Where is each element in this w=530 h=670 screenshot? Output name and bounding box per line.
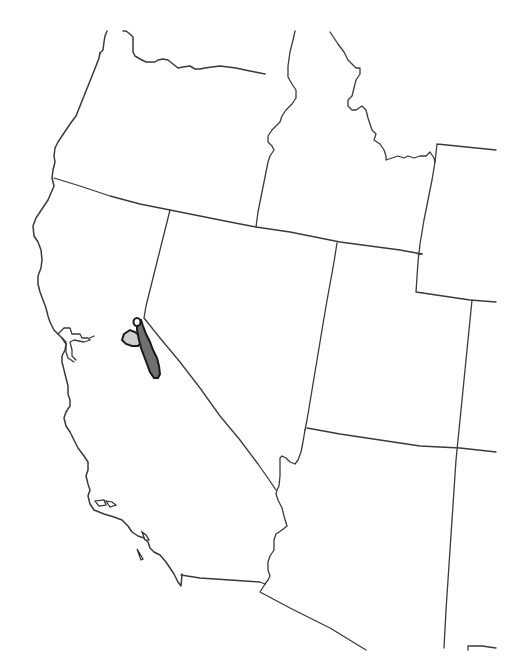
id-mt-boundary: [330, 32, 435, 162]
island: [106, 501, 116, 507]
nm-mexico-border: [468, 646, 496, 650]
or-ca-nv-id-boundary: [54, 178, 422, 254]
pacific-coastline: [33, 53, 182, 586]
oregon-north-boundary: [100, 31, 265, 74]
ut-az-boundary: [307, 428, 496, 452]
range-map: [0, 0, 530, 670]
sf-bay: [58, 328, 94, 362]
ca-nv-boundary: [144, 210, 276, 490]
or-id-boundary: [256, 31, 296, 227]
wy-boundary: [416, 144, 496, 302]
isolated-population: [134, 318, 141, 326]
nv-ut-boundary: [305, 243, 337, 430]
island: [137, 549, 143, 560]
colorado-river-boundary: [265, 430, 305, 584]
ut-co-az-nm-boundary: [444, 300, 472, 648]
island: [142, 532, 149, 540]
az-mexico-border: [260, 584, 366, 650]
primary-range: [137, 320, 160, 378]
island: [95, 500, 106, 506]
ca-mexico-border: [181, 575, 265, 584]
